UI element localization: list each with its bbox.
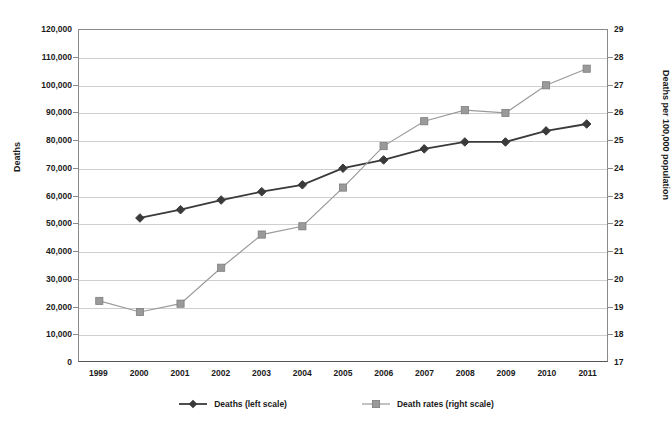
left-axis-tick-label: 90,000	[6, 107, 72, 117]
series-1	[136, 120, 591, 223]
left-axis-tick-mark	[73, 251, 78, 252]
chart-container: Deaths Deaths per 100,000 population 010…	[0, 0, 672, 428]
data-point-diamond	[257, 187, 266, 196]
right-axis-tick-mark	[608, 57, 613, 58]
data-point-square	[583, 65, 590, 72]
right-axis-tick-label: 26	[614, 107, 654, 117]
data-point-diamond	[420, 145, 429, 154]
data-point-square	[421, 118, 428, 125]
right-axis-tick-mark	[608, 334, 613, 335]
right-axis-tick-label: 18	[614, 329, 654, 339]
left-axis-tick-label: 110,000	[6, 52, 72, 62]
data-point-square	[461, 107, 468, 114]
series-2	[96, 65, 591, 315]
right-axis-tick-label: 28	[614, 52, 654, 62]
left-axis-tick-label: 30,000	[6, 274, 72, 284]
data-point-square	[258, 231, 265, 238]
right-axis-tick-label: 19	[614, 302, 654, 312]
data-point-diamond	[461, 138, 470, 147]
data-point-diamond	[339, 164, 348, 173]
right-axis-tick-label: 27	[614, 80, 654, 90]
left-axis-title: Deaths	[12, 112, 22, 202]
legend-square-icon	[361, 398, 391, 410]
right-axis-tick-label: 17	[614, 357, 654, 367]
right-axis-tick-mark	[608, 196, 613, 197]
right-axis-tick-mark	[608, 140, 613, 141]
data-point-diamond	[542, 127, 551, 136]
series-line	[140, 124, 587, 218]
x-axis-tick-label: 2011	[558, 368, 618, 378]
data-point-square	[96, 297, 103, 304]
left-axis-tick-label: 50,000	[6, 218, 72, 228]
data-point-square	[299, 223, 306, 230]
left-axis-tick-mark	[73, 85, 78, 86]
legend-label: Deaths (left scale)	[214, 399, 287, 409]
right-axis-tick-mark	[608, 112, 613, 113]
series-layer	[79, 30, 607, 362]
right-axis-tick-label: 20	[614, 274, 654, 284]
left-axis-tick-label: 20,000	[6, 302, 72, 312]
data-point-diamond	[379, 156, 388, 165]
left-axis-tick-mark	[73, 334, 78, 335]
data-point-diamond	[501, 138, 510, 147]
left-axis-tick-mark	[73, 168, 78, 169]
right-axis-tick-label: 21	[614, 246, 654, 256]
right-axis-tick-mark	[608, 85, 613, 86]
chart-legend: Deaths (left scale)Death rates (right sc…	[0, 398, 672, 410]
legend-diamond-icon	[178, 398, 208, 410]
left-axis-tick-label: 70,000	[6, 163, 72, 173]
left-axis-tick-label: 0	[6, 357, 72, 367]
right-axis-tick-label: 22	[614, 218, 654, 228]
legend-item-2[interactable]: Death rates (right scale)	[361, 398, 494, 410]
left-axis-tick-label: 60,000	[6, 191, 72, 201]
data-point-diamond	[582, 120, 591, 129]
data-point-diamond	[217, 196, 226, 205]
left-axis-tick-mark	[73, 57, 78, 58]
right-axis-tick-mark	[608, 223, 613, 224]
left-axis-tick-mark	[73, 307, 78, 308]
right-axis-tick-mark	[608, 251, 613, 252]
right-axis-tick-mark	[608, 307, 613, 308]
legend-label: Death rates (right scale)	[397, 399, 494, 409]
right-axis-tick-label: 23	[614, 191, 654, 201]
right-axis-tick-label: 24	[614, 163, 654, 173]
left-axis-tick-mark	[73, 112, 78, 113]
left-axis-tick-label: 100,000	[6, 80, 72, 90]
data-point-diamond	[298, 181, 307, 190]
data-point-square	[339, 184, 346, 191]
data-point-square	[380, 143, 387, 150]
data-point-square	[136, 308, 143, 315]
left-axis-tick-mark	[73, 196, 78, 197]
data-point-square	[502, 109, 509, 116]
left-axis-tick-label: 120,000	[6, 24, 72, 34]
right-axis-tick-label: 25	[614, 135, 654, 145]
data-point-diamond	[136, 214, 145, 223]
legend-item-1[interactable]: Deaths (left scale)	[178, 398, 287, 410]
left-axis-tick-label: 40,000	[6, 246, 72, 256]
chart-title	[0, 0, 672, 4]
data-point-square	[542, 82, 549, 89]
data-point-square	[218, 264, 225, 271]
data-point-square	[177, 300, 184, 307]
left-axis-tick-label: 80,000	[6, 135, 72, 145]
right-axis-title: Deaths per 100,000 population	[661, 55, 671, 215]
right-axis-tick-mark	[608, 168, 613, 169]
left-axis-tick-mark	[73, 279, 78, 280]
plot-area	[78, 29, 608, 362]
left-axis-tick-mark	[73, 140, 78, 141]
left-axis-tick-label: 10,000	[6, 329, 72, 339]
right-axis-tick-mark	[608, 279, 613, 280]
left-axis-tick-mark	[73, 223, 78, 224]
data-point-diamond	[176, 205, 185, 214]
right-axis-tick-label: 29	[614, 24, 654, 34]
